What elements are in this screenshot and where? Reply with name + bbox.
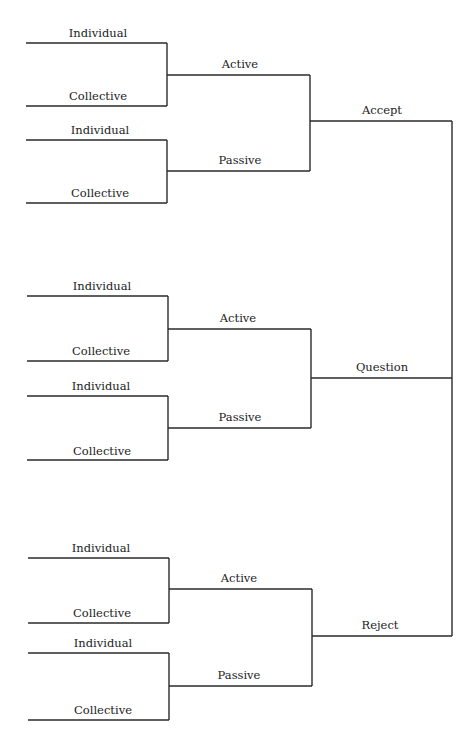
accept-label: Accept xyxy=(361,103,402,117)
passive-label: Passive xyxy=(219,410,262,424)
group-question: Question Active Individual Collective Pa… xyxy=(27,279,452,460)
collective-label: Collective xyxy=(74,703,132,717)
individual-label: Individual xyxy=(72,379,131,393)
collective-label: Collective xyxy=(72,344,130,358)
collective-label: Collective xyxy=(73,444,131,458)
individual-label: Individual xyxy=(73,279,132,293)
question-label: Question xyxy=(356,360,409,374)
collective-label: Collective xyxy=(71,186,129,200)
active-label: Active xyxy=(219,311,257,325)
individual-label: Individual xyxy=(74,636,133,650)
individual-label: Individual xyxy=(71,123,130,137)
passive-label: Passive xyxy=(218,668,261,682)
bracket-tree-diagram: Accept Active Individual Collective Pass… xyxy=(0,0,476,751)
collective-label: Collective xyxy=(69,89,127,103)
group-accept: Accept Active Individual Collective Pass… xyxy=(26,26,452,203)
individual-label: Individual xyxy=(69,26,128,40)
passive-label: Passive xyxy=(219,153,262,167)
active-label: Active xyxy=(221,57,259,71)
collective-label: Collective xyxy=(73,606,131,620)
group-reject: Reject Active Individual Collective Pass… xyxy=(28,541,452,720)
active-label: Active xyxy=(220,571,258,585)
individual-label: Individual xyxy=(72,541,131,555)
reject-label: Reject xyxy=(362,618,399,632)
